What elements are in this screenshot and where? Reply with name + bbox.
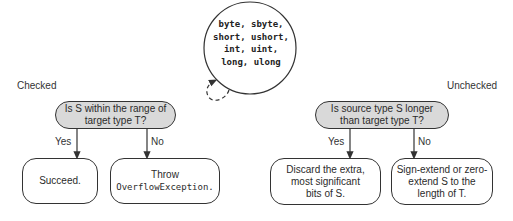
unchecked-yes-result: Discard the extra, most significant bits… <box>270 158 381 205</box>
checked-yes-result: Succeed. <box>22 158 98 204</box>
unchecked-title: Unchecked <box>447 80 497 91</box>
types-line: short, ushort, <box>205 31 297 44</box>
types-line: byte, sbyte, <box>205 18 297 31</box>
question-line: than target type T? <box>331 115 433 127</box>
checked-yes-label: Yes <box>55 136 71 147</box>
question-line: target type T? <box>65 115 167 127</box>
unchecked-decision: Is source type S longer than target type… <box>315 101 449 129</box>
unchecked-no-result: Sign-extend or zero- extend S to the len… <box>391 158 493 205</box>
types-line: long, ulong <box>205 56 297 69</box>
result-text: Discard the extra, <box>286 164 364 176</box>
types-line: int, uint, <box>205 43 297 56</box>
result-text: length of T. <box>397 188 488 200</box>
loop-arrow-icon <box>207 81 229 100</box>
integral-types-list: byte, sbyte, short, ushort, int, uint, l… <box>205 18 297 68</box>
result-text: Sign-extend or zero- <box>397 164 488 176</box>
checked-decision: Is S within the range of target type T? <box>55 101 176 129</box>
checked-no-result: Throw OverflowException. <box>110 158 220 204</box>
checked-title: Checked <box>17 80 56 91</box>
result-text: Throw <box>116 169 214 181</box>
result-text: Succeed. <box>39 175 81 187</box>
unchecked-no-label: No <box>418 136 431 147</box>
checked-no-label: No <box>151 136 164 147</box>
question-line: Is source type S longer <box>331 103 433 115</box>
question-line: Is S within the range of <box>65 103 167 115</box>
unchecked-yes-label: Yes <box>328 136 344 147</box>
result-text: bits of S. <box>286 188 364 200</box>
result-text: most significant <box>286 176 364 188</box>
result-text: extend S to the <box>397 176 488 188</box>
exception-name: OverflowException. <box>116 181 214 193</box>
